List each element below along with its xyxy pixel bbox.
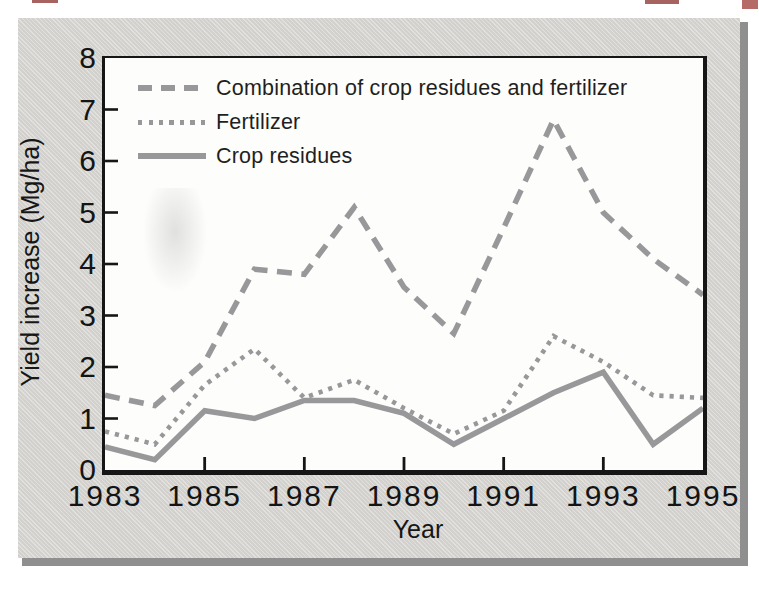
x-tick-label: 1995 xyxy=(653,480,753,512)
legend-label: Crop residues xyxy=(216,144,352,169)
legend-label: Combination of crop residues and fertili… xyxy=(216,76,627,101)
x-tick-label: 1985 xyxy=(155,480,255,512)
y-tick-label: 4 xyxy=(36,248,96,280)
x-tick-label: 1993 xyxy=(553,480,653,512)
y-tick-label: 3 xyxy=(36,300,96,332)
y-tick-label: 7 xyxy=(36,94,96,126)
legend-item-combination: Combination of crop residues and fertili… xyxy=(138,71,627,105)
x-axis-title: Year xyxy=(338,515,498,544)
dashed-line-swatch-icon xyxy=(138,85,206,91)
series-line-solid xyxy=(105,372,703,460)
panel-shadow-bottom xyxy=(22,558,748,566)
y-tick-label: 6 xyxy=(36,145,96,177)
figure-page: Combination of crop residues and fertili… xyxy=(0,0,759,596)
legend: Combination of crop residues and fertili… xyxy=(138,71,627,173)
scan-artifact xyxy=(742,0,758,9)
y-tick-label: 1 xyxy=(36,403,96,435)
scan-artifact xyxy=(645,0,679,4)
scan-artifact xyxy=(32,0,58,3)
dotted-line-swatch-icon xyxy=(138,120,206,125)
x-tick-label: 1983 xyxy=(55,480,155,512)
solid-line-swatch-icon xyxy=(138,153,206,159)
y-tick-label: 8 xyxy=(36,42,96,74)
legend-item-fertilizer: Fertilizer xyxy=(138,105,627,139)
x-tick-label: 1989 xyxy=(354,480,454,512)
legend-label: Fertilizer xyxy=(216,110,300,135)
y-tick-label: 2 xyxy=(36,351,96,383)
legend-item-crop-residues: Crop residues xyxy=(138,139,627,173)
y-tick-label: 5 xyxy=(36,197,96,229)
x-tick-label: 1987 xyxy=(254,480,354,512)
plot-area: Combination of crop residues and fertili… xyxy=(102,56,707,475)
x-tick-label: 1991 xyxy=(454,480,554,512)
